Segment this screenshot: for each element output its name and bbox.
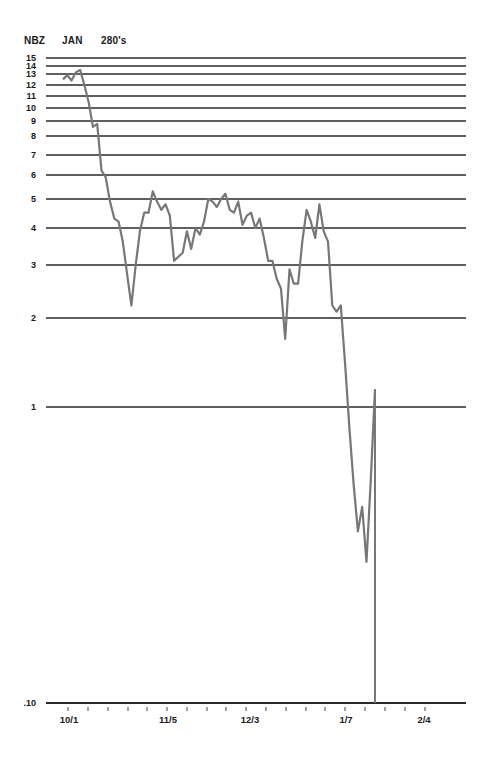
x-axis xyxy=(68,707,425,711)
price-chart xyxy=(0,0,492,762)
price-line xyxy=(63,70,375,562)
gridlines xyxy=(46,58,466,703)
